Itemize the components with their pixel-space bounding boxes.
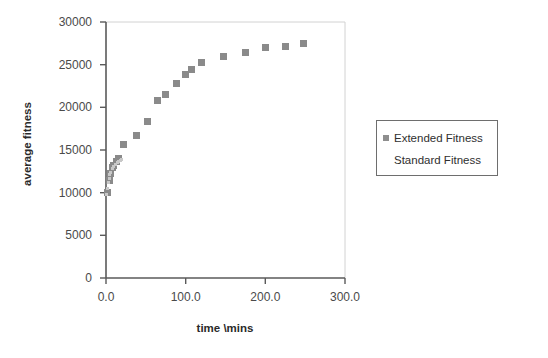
fitness-scatter-chart: 050001000015000200002500030000 0.0100.02…: [0, 0, 548, 358]
legend-swatch-standard-icon: [383, 157, 389, 163]
legend-label-extended: Extended Fitness: [394, 132, 483, 144]
legend-item-extended[interactable]: Extended Fitness: [383, 127, 493, 149]
x-tick-labels: 0.0100.0200.0300.0: [0, 0, 548, 358]
x-tick-label: 200.0: [235, 290, 295, 304]
legend-label-standard: Standard Fitness: [394, 154, 481, 166]
legend-item-standard[interactable]: Standard Fitness: [383, 149, 493, 171]
legend-swatch-extended-icon: [383, 135, 389, 141]
chart-legend: Extended Fitness Standard Fitness: [376, 120, 498, 176]
x-axis-title: time \mins: [106, 322, 344, 334]
x-tick-label: 300.0: [315, 290, 375, 304]
x-tick-label: 100.0: [156, 290, 216, 304]
x-tick-label: 0.0: [76, 290, 136, 304]
y-axis-title: average fitness: [21, 69, 33, 219]
